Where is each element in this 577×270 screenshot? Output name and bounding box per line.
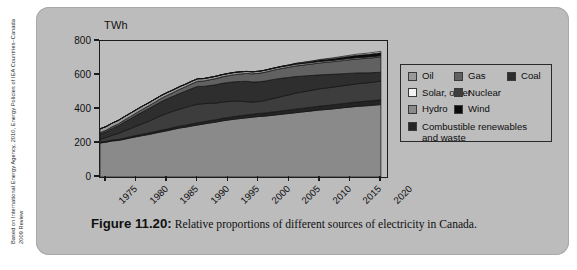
x-axis-tick-label: 1990 <box>208 183 231 206</box>
y-axis-tick-label: 400 <box>54 103 98 114</box>
plot-area <box>99 40 388 178</box>
legend-swatch-combustible-renewables <box>408 122 417 131</box>
y-axis-tick-label: 0 <box>54 171 98 182</box>
x-axis-tick-label: 2020 <box>391 183 414 206</box>
legend-label: Combustible renewables and waste <box>422 121 540 143</box>
x-axis-tick-label: 1995 <box>238 183 261 206</box>
chart-legend: OilGasCoalSolar, otherNuclearHydroWindCo… <box>400 64 552 142</box>
x-axis-tick-mark <box>257 176 258 181</box>
x-axis-tick-mark <box>227 176 228 181</box>
legend-item-nuclear: Nuclear <box>454 88 507 98</box>
legend-row: Solar, otherNuclear <box>408 88 544 98</box>
x-axis-tick-label: 1980 <box>147 183 170 206</box>
legend-item-combustible-renewables-and-waste: Combustible renewables and waste <box>408 121 544 143</box>
x-axis-tick-mark <box>318 176 319 181</box>
legend-label: Oil <box>422 71 434 81</box>
legend-item-oil: Oil <box>408 71 454 81</box>
source-credit-text: Based on International Energy Agency, 20… <box>9 16 25 244</box>
legend-label: Gas <box>468 71 486 81</box>
legend-label: Coal <box>521 71 541 81</box>
legend-item-gas: Gas <box>454 71 507 81</box>
x-axis-tick-label: 2015 <box>361 183 384 206</box>
legend-swatch-oil <box>408 72 417 81</box>
legend-item-wind: Wind <box>454 104 507 114</box>
x-axis-tick-label: 1985 <box>177 183 200 206</box>
x-axis-tick-mark <box>104 176 105 181</box>
stacked-area-chart <box>100 41 387 177</box>
legend-row: OilGasCoal <box>408 71 544 81</box>
x-axis-tick-label: 2000 <box>269 183 292 206</box>
x-axis-tick-label: 1975 <box>116 183 139 206</box>
x-axis-tick-mark <box>135 176 136 181</box>
legend-item-hydro: Hydro <box>408 104 454 114</box>
x-axis-tick-mark <box>196 176 197 181</box>
legend-row: HydroWind <box>408 104 544 114</box>
figure-number: Figure 11.20: <box>91 216 172 231</box>
caption-text: Relative proportions of different source… <box>175 218 477 231</box>
legend-swatch-solar-other <box>408 88 417 97</box>
x-axis-tick-mark <box>288 176 289 181</box>
figure-container: Based on International Energy Agency, 20… <box>0 0 577 270</box>
y-axis-tick-label: 600 <box>54 69 98 80</box>
figure-caption: Figure 11.20: Relative proportions of di… <box>91 217 551 232</box>
legend-swatch-hydro <box>408 105 417 114</box>
y-axis-unit-label: TWh <box>104 19 128 31</box>
x-axis-tick-mark <box>379 176 380 181</box>
legend-label: Hydro <box>422 104 448 114</box>
legend-swatch-wind <box>454 105 463 114</box>
legend-swatch-gas <box>454 72 463 81</box>
legend-label: Nuclear <box>468 88 501 98</box>
legend-label: Wind <box>468 104 490 114</box>
legend-item-coal: Coal <box>507 71 541 81</box>
y-axis-tick-label: 200 <box>54 137 98 148</box>
y-axis-tick-label: 800 <box>54 35 98 46</box>
x-axis-tick-mark <box>349 176 350 181</box>
legend-item-solar-other: Solar, other <box>408 88 454 98</box>
legend-swatch-nuclear <box>454 88 463 97</box>
x-axis-tick-label: 2005 <box>300 183 323 206</box>
x-axis-tick-label: 2010 <box>330 183 353 206</box>
source-credit: Based on International Energy Agency, 20… <box>8 14 26 254</box>
legend-swatch-coal <box>507 72 516 81</box>
figure-card: TWh 0200400600800 1975198019851990199520… <box>36 7 569 255</box>
x-axis-tick-mark <box>165 176 166 181</box>
